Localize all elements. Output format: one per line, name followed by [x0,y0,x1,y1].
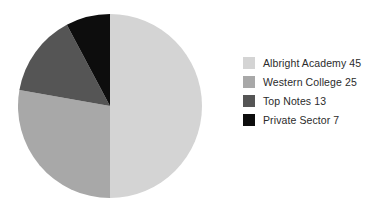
legend-label-albright-academy: Albright Academy 45 [263,57,361,69]
pie-slice-group [18,14,202,198]
legend-label-top-notes: Top Notes 13 [263,95,326,107]
legend-label-private-sector: Private Sector 7 [263,114,339,126]
legend-item-western-college[interactable]: Western College 25 [243,72,377,91]
legend-swatch-albright-academy [243,57,255,69]
pie-chart-plot-area [18,14,202,198]
legend-swatch-western-college [243,76,255,88]
pie-chart-svg [18,14,202,198]
legend-item-top-notes[interactable]: Top Notes 13 [243,91,377,110]
chart-legend: Albright Academy 45 Western College 25 T… [243,53,377,129]
pie-slice[interactable] [18,90,110,198]
legend-swatch-private-sector [243,114,255,126]
legend-swatch-top-notes [243,95,255,107]
pie-chart-figure: Albright Academy 45 Western College 25 T… [0,0,380,213]
legend-item-albright-academy[interactable]: Albright Academy 45 [243,53,377,72]
legend-label-western-college: Western College 25 [263,76,357,88]
pie-slice[interactable] [110,14,202,198]
legend-item-private-sector[interactable]: Private Sector 7 [243,110,377,129]
